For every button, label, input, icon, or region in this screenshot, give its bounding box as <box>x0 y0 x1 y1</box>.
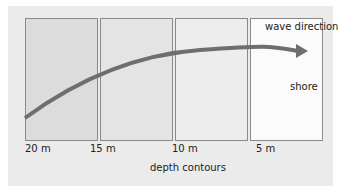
depth-tick-15m: 15 m <box>90 143 116 154</box>
wave-direction-label: wave direction <box>265 21 325 32</box>
depth-tick-5m: 5 m <box>256 143 275 154</box>
depth-tick-10m: 10 m <box>172 143 198 154</box>
shore-label: shore <box>290 81 318 92</box>
depth-contours-title: depth contours <box>150 162 226 173</box>
depth-tick-20m: 20 m <box>25 143 51 154</box>
